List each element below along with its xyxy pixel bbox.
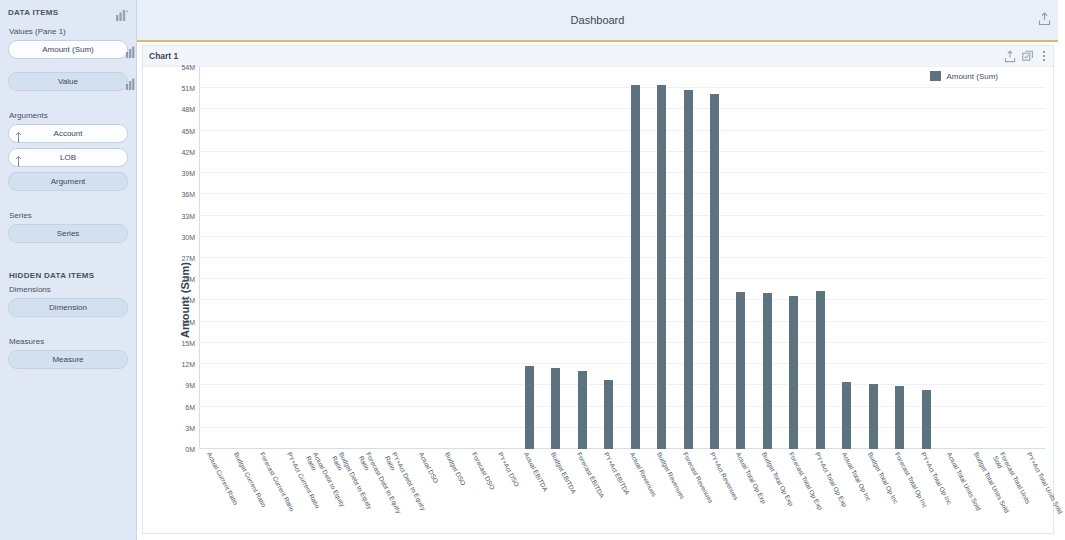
bar[interactable] [551,368,560,449]
more-options-icon[interactable] [1040,51,1048,61]
export-icon[interactable] [1004,49,1016,62]
bar-slot[interactable] [543,67,569,449]
bar-slot[interactable] [913,67,939,449]
bar-slot[interactable] [411,67,437,449]
spacer [8,322,128,337]
bar-slot[interactable] [490,67,516,449]
chart-panel: Chart 1 [142,45,1054,534]
data-item-label: LOB [60,153,76,162]
bar[interactable] [842,382,851,449]
x-label-slot: Actual Revenues [622,449,648,533]
hidden-data-items-title: HIDDEN DATA ITEMS [9,271,128,280]
bar-slot[interactable] [728,67,754,449]
y-axis-tick: 21M [181,297,195,304]
bar-slot[interactable] [252,67,278,449]
chart-bar-icon[interactable] [126,44,137,56]
legend-label: Amount (Sum) [946,72,998,81]
bar[interactable] [684,90,693,449]
bar-slot[interactable] [331,67,357,449]
dashboard-main: Dashboard Chart 1 [137,0,1058,540]
bar[interactable] [525,366,534,449]
measure-drop-placeholder[interactable]: Measure [8,350,128,369]
chart-title: Chart 1 [149,51,178,61]
bar-slot[interactable] [966,67,992,449]
bar-slot[interactable] [675,67,701,449]
bar-slot[interactable] [648,67,674,449]
placeholder-label: Argument [51,177,86,186]
y-axis-tick: 18M [181,318,195,325]
bar-slot[interactable] [992,67,1018,449]
bar[interactable] [578,371,587,449]
y-axis-tick: 27M [181,255,195,262]
bar[interactable] [631,85,640,449]
y-axis-tick: 33M [181,212,195,219]
bar[interactable] [789,296,798,449]
bar[interactable] [869,384,878,449]
bar-slot[interactable] [278,67,304,449]
dimension-drop-placeholder[interactable]: Dimension [8,298,128,317]
spacer [8,248,128,263]
data-item-lob[interactable]: LOB [8,148,128,167]
y-axis-tick: 24M [181,276,195,283]
bar-slot[interactable] [622,67,648,449]
page-title: Dashboard [571,14,625,26]
bar-slot[interactable] [358,67,384,449]
bar[interactable] [736,292,745,449]
bar-slot[interactable] [754,67,780,449]
bar[interactable] [763,293,772,449]
x-label-slot: PY+Act Total Op Inc [913,449,939,533]
export-icon[interactable] [1038,12,1051,26]
spacer [8,263,128,271]
bar-slot[interactable] [781,67,807,449]
sort-asc-icon [15,153,22,164]
bar-slot[interactable] [225,67,251,449]
series-drop-placeholder[interactable]: Series [8,224,128,243]
y-axis-tick: 51M [181,85,195,92]
placeholder-label: Series [57,229,80,238]
data-item-label: Value [58,77,78,86]
dashboard-topbar: Dashboard [137,0,1058,42]
x-label-slot: Actual Current Ratio [199,449,225,533]
bar[interactable] [710,94,719,449]
y-axis-tick: 9M [185,382,195,389]
bar-slot[interactable] [199,67,225,449]
bar-slot[interactable] [834,67,860,449]
x-label-slot: Actual Total Op Inc [834,449,860,533]
bar[interactable] [895,386,904,449]
bar[interactable] [922,390,931,449]
y-axis-tick: 3M [185,424,195,431]
bar-slot[interactable] [596,67,622,449]
bar-slot[interactable] [1019,67,1045,449]
bar[interactable] [657,85,666,449]
x-label-slot: Forecast Revenues [675,449,701,533]
y-axis-tick: 6M [185,403,195,410]
bar-slot[interactable] [569,67,595,449]
argument-drop-placeholder[interactable]: Argument [8,172,128,191]
y-axis-tick: 36M [181,191,195,198]
x-label-slot: Actual Debt to Equity Ratio [305,449,331,533]
data-item-value-placeholder[interactable]: Value [8,72,128,91]
data-item-account[interactable]: Account [8,124,128,143]
bar-slot[interactable] [305,67,331,449]
bar-slot[interactable] [701,67,727,449]
x-label-slot: Forecast Total Op Inc [886,449,912,533]
multi-select-icon[interactable] [1022,49,1034,62]
legend-swatch [930,71,941,81]
chart-bar-icon[interactable] [116,7,128,18]
bar-slot[interactable] [886,67,912,449]
bar-slot[interactable] [807,67,833,449]
bar[interactable] [816,291,825,449]
spacer [8,96,128,111]
placeholder-label: Dimension [49,303,87,312]
bar-slot[interactable] [437,67,463,449]
bar-slot[interactable] [516,67,542,449]
x-label-slot: Budget Total Units Sold [966,449,992,533]
bar-slot[interactable] [384,67,410,449]
chart-bar-icon[interactable] [126,76,137,88]
bar-slot[interactable] [860,67,886,449]
x-axis-labels: Actual Current RatioBudget Current Ratio… [199,449,1045,533]
data-item-amount-sum[interactable]: Amount (Sum) [8,40,128,59]
bar[interactable] [604,380,613,449]
bar-slot[interactable] [939,67,965,449]
bar-slot[interactable] [463,67,489,449]
